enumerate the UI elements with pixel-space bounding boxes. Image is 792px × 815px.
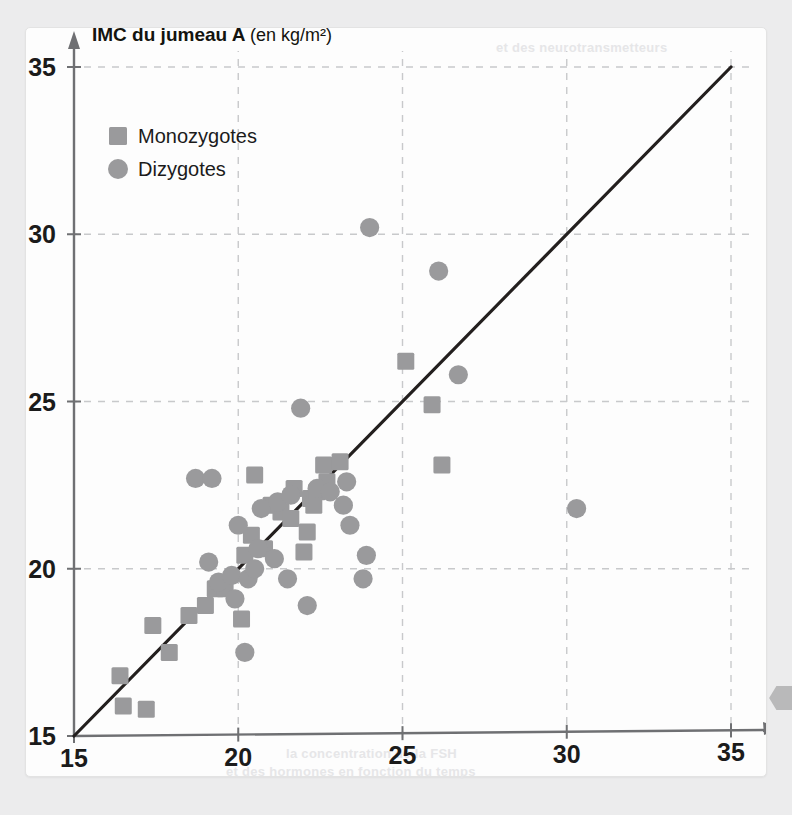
data-point-monozygote [115,697,132,714]
data-point-dizygote [334,496,353,515]
data-point-dizygote [186,469,205,488]
data-point-dizygote [337,472,356,491]
chart-legend: MonozygotesDizygotes [108,125,257,180]
x-tick-label: 30 [553,740,581,768]
y-tick-label: 35 [28,53,56,81]
data-point-dizygote [357,546,376,565]
data-point-dizygote [199,552,218,571]
y-axis-unit: (en kg/m²) [250,28,332,45]
data-point-dizygote [245,559,264,578]
data-point-dizygote [360,218,379,237]
data-point-monozygote [397,353,414,370]
legend-marker-circle [108,159,128,179]
data-point-dizygote [225,589,244,608]
data-point-monozygote [111,667,128,684]
data-point-monozygote [433,457,450,474]
data-point-monozygote [180,607,197,624]
data-point-dizygote [248,539,267,558]
data-point-dizygote [298,596,317,615]
figure-card: et des neurotransmetteurs la concentrati… [25,27,767,777]
data-point-dizygote [278,569,297,588]
data-point-monozygote [246,467,263,484]
y-axis-title: IMC du jumeau A (en kg/m²) [92,28,332,45]
page-edge-tab [766,686,792,710]
data-point-dizygote [291,399,310,418]
data-point-dizygote [229,516,248,535]
data-point-dizygote [340,516,359,535]
data-point-monozygote [161,644,178,661]
data-point-dizygote [429,261,448,280]
data-point-dizygote [235,643,254,662]
legend-label: Dizygotes [138,158,226,180]
y-tick-label: 25 [28,388,56,416]
data-point-monozygote [299,523,316,540]
data-point-monozygote [315,457,332,474]
data-point-monozygote [197,597,214,614]
x-tick-label: 15 [60,744,88,772]
data-point-monozygote [233,610,250,627]
data-point-dizygote [281,486,300,505]
y-axis-arrowhead [68,31,80,49]
data-point-monozygote [295,544,312,561]
data-point-dizygote [449,365,468,384]
data-point-dizygote [265,549,284,568]
legend-marker-square [109,127,127,145]
data-points [111,218,586,718]
x-tick-label: 20 [224,743,252,771]
data-point-dizygote [567,499,586,518]
x-tick-label: 35 [717,738,745,766]
data-point-dizygote [202,469,221,488]
scatter-plot: 15202530351520253035 MonozygotesDizygote… [26,28,766,776]
x-axis-arrowhead [763,722,766,735]
data-point-dizygote [222,566,241,585]
x-tick-label: 25 [389,741,417,769]
data-point-monozygote [282,510,299,527]
y-tick-label: 15 [28,722,56,750]
data-point-monozygote [144,617,161,634]
y-tick-label: 30 [28,220,56,248]
data-point-monozygote [138,701,155,718]
data-point-monozygote [424,396,441,413]
legend-label: Monozygotes [138,125,257,147]
data-point-dizygote [252,499,271,518]
data-point-dizygote [353,569,372,588]
data-point-monozygote [332,453,349,470]
y-tick-label: 20 [28,555,56,583]
x-axis-line [74,730,766,736]
